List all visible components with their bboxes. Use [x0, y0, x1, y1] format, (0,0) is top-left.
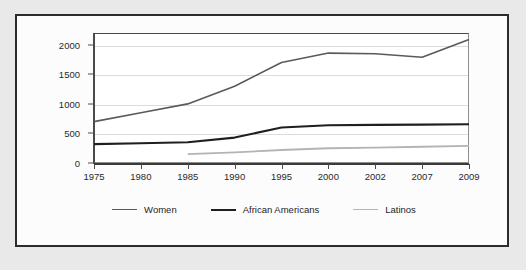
- x-tick-mark: [282, 164, 283, 169]
- x-tick-label: 1995: [271, 171, 292, 182]
- x-tick-label: 1990: [224, 171, 245, 182]
- x-tick-mark: [328, 164, 329, 169]
- series-line-african-americans: [94, 124, 469, 144]
- x-tick-label: 1975: [83, 171, 104, 182]
- y-axis: 0500100015002000: [17, 33, 89, 163]
- y-tick-label: 0: [75, 158, 80, 169]
- x-tick-label: 1980: [130, 171, 151, 182]
- figure-card: 0500100015002000 19751980198519901995200…: [15, 14, 509, 247]
- x-tick-label: 2007: [412, 171, 433, 182]
- x-tick-label: 1985: [177, 171, 198, 182]
- y-tick-label: 1500: [59, 69, 80, 80]
- line-chart: 0500100015002000 19751980198519901995200…: [17, 16, 511, 249]
- legend-line-icon: [112, 209, 137, 210]
- legend-item-african-americans[interactable]: African Americans: [211, 204, 320, 215]
- legend-line-icon: [211, 209, 236, 211]
- x-tick-label: 2000: [318, 171, 339, 182]
- legend-label: Women: [144, 204, 177, 215]
- x-tick-mark: [94, 164, 95, 169]
- x-tick-label: 2002: [365, 171, 386, 182]
- legend-label: Latinos: [385, 204, 416, 215]
- x-tick-label: 2009: [458, 171, 479, 182]
- x-tick-mark: [375, 164, 376, 169]
- series-line-latinos: [188, 146, 469, 154]
- chart-legend: WomenAfrican AmericansLatinos: [17, 204, 511, 215]
- legend-item-latinos[interactable]: Latinos: [353, 204, 416, 215]
- x-tick-mark: [469, 164, 470, 169]
- y-tick-label: 2000: [59, 39, 80, 50]
- x-tick-mark: [422, 164, 423, 169]
- y-tick-label: 500: [64, 128, 80, 139]
- series-lines: [94, 33, 469, 163]
- legend-item-women[interactable]: Women: [112, 204, 177, 215]
- top-caption-strip: [0, 0, 526, 11]
- x-tick-mark: [141, 164, 142, 169]
- series-line-women: [94, 40, 469, 122]
- x-tick-mark: [188, 164, 189, 169]
- x-tick-mark: [235, 164, 236, 169]
- legend-label: African Americans: [243, 204, 320, 215]
- y-tick-label: 1000: [59, 98, 80, 109]
- legend-line-icon: [353, 209, 378, 210]
